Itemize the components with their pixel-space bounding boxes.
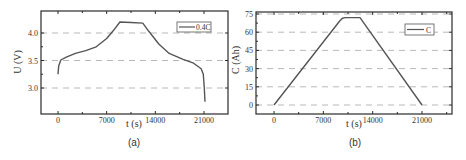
chart-b-legend: C <box>405 24 434 35</box>
x-tick-label: 7000 <box>99 116 115 125</box>
x-tick-label: 14000 <box>363 116 383 125</box>
chart-a: 3.03.54.0070001400021000 0.4C t (s) U (V… <box>12 11 228 148</box>
y-tick-label: 3.0 <box>28 84 38 93</box>
chart-a-legend-label: 0.4C <box>196 23 210 32</box>
y-tick-label: 15 <box>245 83 253 92</box>
x-tick-label: 21000 <box>194 116 214 125</box>
chart-b-ylabel: C (Ah) <box>230 46 242 74</box>
chart-b-series-C <box>274 18 422 105</box>
figure: 3.03.54.0070001400021000 0.4C t (s) U (V… <box>0 0 466 160</box>
y-tick-label: 30 <box>245 65 253 74</box>
chart-a-caption: (a) <box>128 137 140 148</box>
chart-a-xlabel: t (s) <box>126 118 142 130</box>
chart-a-ylabel: U (V) <box>12 50 24 74</box>
chart-a-legend: 0.4C <box>177 22 211 32</box>
y-tick-label: 75 <box>245 10 253 19</box>
chart-b: 01530456075070001400021000 C t (s) C (Ah… <box>230 10 452 148</box>
y-tick-label: 4.0 <box>28 29 38 38</box>
chart-b-xlabel: t (s) <box>346 118 362 130</box>
y-tick-label: 3.5 <box>28 57 38 66</box>
chart-a-series-0.4C <box>58 22 205 102</box>
y-tick-label: 0 <box>249 101 253 110</box>
y-tick-label: 45 <box>245 46 253 55</box>
x-tick-label: 0 <box>56 116 60 125</box>
chart-a-gridlines <box>41 33 228 88</box>
x-tick-label: 14000 <box>145 116 165 125</box>
x-tick-label: 21000 <box>412 116 432 125</box>
x-tick-label: 7000 <box>315 116 331 125</box>
chart-b-caption: (b) <box>349 137 361 148</box>
chart-b-legend-label: C <box>426 26 431 35</box>
x-tick-label: 0 <box>272 116 276 125</box>
y-tick-label: 60 <box>245 28 253 37</box>
